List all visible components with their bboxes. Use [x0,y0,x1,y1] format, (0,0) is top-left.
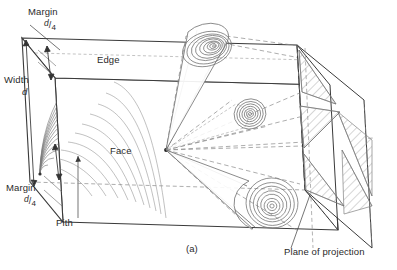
face-label: Face [110,145,132,156]
edge-label: Edge [97,54,120,65]
plane-of-projection-label: Plane of projection [284,246,365,257]
pith-point [38,172,41,175]
margin-bottom-label: Margin [6,182,36,193]
margin-bottom-fraction: d/4 [24,195,36,206]
width-symbol: d [22,86,27,97]
figure-canvas: Margin d/4 Width d Margin d/4 Pith Edge … [0,0,397,270]
margin-top-denominator: 4 [51,23,56,32]
margin-top-label: Margin [28,6,58,17]
margin-bottom-numerator: d [24,194,29,204]
margin-bottom-denominator: 4 [31,199,36,208]
pith-label: Pith [56,217,73,228]
width-label: Width [4,74,29,85]
margin-top-fraction: d/4 [44,19,56,30]
beam-diagram-svg [0,0,397,270]
figure-caption: (a) [186,243,198,254]
margin-top-numerator: d [44,18,49,28]
